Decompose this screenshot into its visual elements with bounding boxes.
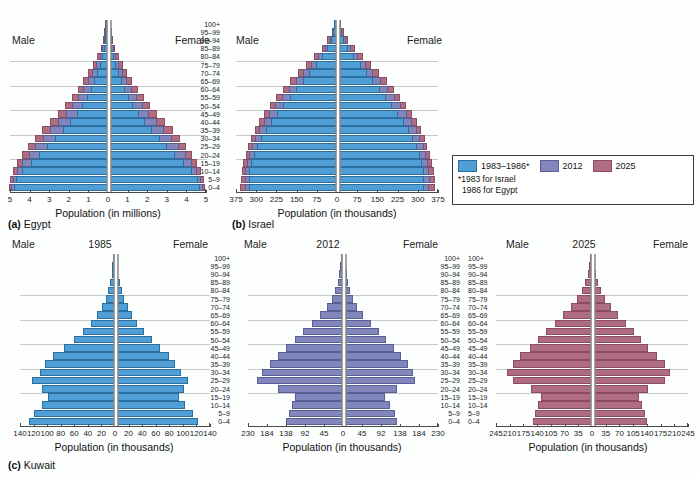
x-tick-mark bbox=[248, 424, 249, 427]
x-tick-mark bbox=[647, 424, 648, 427]
x-tick-mark bbox=[523, 424, 524, 427]
age-group-label: 45–49 bbox=[201, 111, 220, 118]
x-tick-mark bbox=[551, 424, 552, 427]
bar-male-2025 bbox=[546, 328, 592, 336]
bar-male-1985 bbox=[34, 410, 115, 418]
age-group-label: 10–14 bbox=[201, 168, 220, 175]
bar-male-1983 bbox=[271, 118, 337, 126]
bar-female-1983 bbox=[337, 102, 392, 110]
x-tick-label: 0 bbox=[113, 429, 117, 438]
x-tick-mark bbox=[210, 424, 211, 427]
age-group-label: 50–54 bbox=[468, 337, 487, 344]
bar-male-2025 bbox=[563, 311, 592, 319]
age-group-label: 5–9 bbox=[468, 410, 480, 417]
age-group-label: 75–79 bbox=[201, 62, 220, 69]
age-group-label: 10–14 bbox=[468, 402, 487, 409]
x-tick-mark bbox=[196, 424, 197, 427]
x-tick-label: 5 bbox=[8, 195, 12, 204]
age-group-label: 75–79 bbox=[468, 296, 487, 303]
bar-female-1986 bbox=[108, 176, 198, 184]
x-tick-label: 4 bbox=[27, 195, 31, 204]
bar-male-1986 bbox=[87, 94, 108, 102]
bar-male-2025 bbox=[541, 393, 592, 401]
bar-female-2025 bbox=[592, 360, 665, 368]
x-tick-label: 45 bbox=[358, 429, 367, 438]
age-group-label: 60–64 bbox=[211, 320, 230, 327]
x-tick-mark bbox=[438, 190, 439, 193]
age-group-label: 100+ bbox=[214, 255, 230, 262]
x-tick-label: 3 bbox=[47, 195, 51, 204]
x-tick-mark bbox=[128, 190, 129, 193]
x-tick-mark bbox=[34, 424, 35, 427]
x-tick-label: 140 bbox=[13, 429, 26, 438]
center-axis bbox=[336, 20, 341, 192]
x-tick-label: 210 bbox=[503, 429, 516, 438]
age-group-label: 85–89 bbox=[441, 279, 460, 286]
bar-female-1986 bbox=[108, 159, 184, 167]
x-tick-mark bbox=[186, 190, 187, 193]
bar-female-1983 bbox=[337, 184, 424, 192]
x-tick-mark bbox=[606, 424, 607, 427]
x-tick-mark bbox=[377, 190, 378, 193]
bar-female-1985 bbox=[115, 352, 169, 360]
bar-female-2012 bbox=[343, 418, 397, 426]
age-group-label: 100+ bbox=[444, 255, 460, 262]
age-group-label: 95–99 bbox=[468, 263, 487, 270]
bar-male-2025 bbox=[507, 369, 592, 377]
legend-swatch-2012 bbox=[540, 160, 559, 172]
age-group-label: 55–59 bbox=[441, 328, 460, 335]
age-group-label: 55–59 bbox=[211, 328, 230, 335]
bar-male-2012 bbox=[270, 360, 343, 368]
age-group-label: 75–79 bbox=[211, 296, 230, 303]
bar-male-1983 bbox=[251, 159, 337, 167]
bar-female-1986 bbox=[108, 126, 152, 134]
panel-israel: Male Female 3753002251507507515022530037… bbox=[232, 8, 448, 228]
bar-male-1985 bbox=[97, 311, 115, 319]
age-group-label: 55–59 bbox=[201, 94, 220, 101]
bar-male-1985 bbox=[42, 401, 115, 409]
x-tick-label: 0 bbox=[590, 429, 594, 438]
bar-male-1985 bbox=[91, 320, 115, 328]
x-tick-label: 175 bbox=[517, 429, 530, 438]
x-tick-mark bbox=[357, 190, 358, 193]
x-tick-mark bbox=[674, 424, 675, 427]
x-tick-mark bbox=[286, 424, 287, 427]
x-tick-label: 0 bbox=[106, 195, 110, 204]
israel-plot-area bbox=[236, 20, 438, 192]
x-tick-mark bbox=[256, 190, 257, 193]
x-tick-label: 300 bbox=[411, 195, 424, 204]
x-tick-mark bbox=[74, 424, 75, 427]
panel-kuwait-1985: Male 1985 Female 100+95–9990–9485–8980–8… bbox=[8, 238, 230, 458]
age-group-label: 90–94 bbox=[201, 37, 220, 44]
kuwait2012-year-label: 2012 bbox=[316, 238, 339, 250]
age-group-label: 50–54 bbox=[441, 337, 460, 344]
x-tick-label: 5 bbox=[204, 195, 208, 204]
bar-female-2025 bbox=[592, 344, 648, 352]
age-group-label: 35–39 bbox=[201, 127, 220, 134]
age-group-label: 25–29 bbox=[441, 377, 460, 384]
bar-female-1986 bbox=[108, 135, 160, 143]
egypt-x-axis-ticks: 54321012345 bbox=[10, 194, 206, 206]
x-tick-mark bbox=[633, 424, 634, 427]
x-tick-label: 1 bbox=[125, 195, 129, 204]
x-tick-label: 175 bbox=[654, 429, 667, 438]
bar-male-2025 bbox=[571, 303, 592, 311]
bar-male-2025 bbox=[513, 360, 592, 368]
x-tick-mark bbox=[565, 424, 566, 427]
bar-female-1985 bbox=[115, 336, 152, 344]
bar-male-1985 bbox=[42, 385, 115, 393]
panel-kuwait-2012: Male 2012 Female 100+95–9990–9485–8980–8… bbox=[238, 238, 460, 458]
bar-male-2012 bbox=[257, 377, 343, 385]
population-pyramid-figure: 1983–1986* 2012 2025 *1983 for Israel 19… bbox=[0, 0, 698, 478]
bar-male-1985 bbox=[53, 352, 115, 360]
x-tick-mark bbox=[20, 424, 21, 427]
bar-female-1983 bbox=[337, 159, 422, 167]
x-tick-label: 230 bbox=[431, 429, 444, 438]
bar-male-1985 bbox=[64, 344, 115, 352]
x-tick-label: 225 bbox=[270, 195, 283, 204]
bar-male-1985 bbox=[45, 360, 115, 368]
age-group-label: 85–89 bbox=[211, 279, 230, 286]
bar-female-1983 bbox=[337, 69, 367, 77]
x-tick-label: 184 bbox=[260, 429, 273, 438]
bar-female-2025 bbox=[592, 393, 639, 401]
